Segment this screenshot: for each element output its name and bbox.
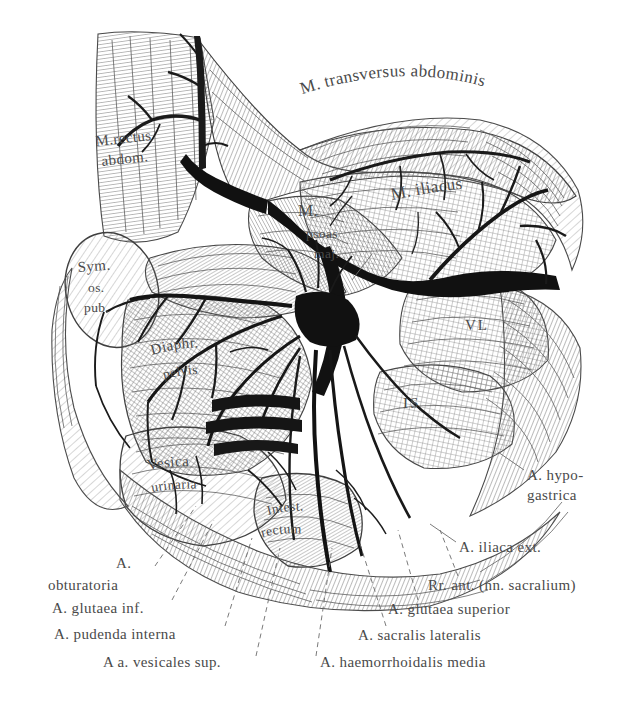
label-glutaea-inf: A. glutaea inf. [52, 600, 144, 616]
label-psoas-major-line3: maj. [314, 246, 339, 261]
label-pudenda-interna: A. pudenda interna [54, 626, 176, 642]
label-rr-ant-sacralium: Rr. ant. (nn. sacralium) [428, 577, 576, 594]
label-glutaea-superior: A. glutaea superior [388, 601, 510, 617]
label-symphysis-line1: Sym. [77, 257, 111, 275]
label-obturatoria-line2: obturatoria [48, 577, 118, 593]
label-psoas-major-m: M. [298, 201, 318, 220]
label-iliaca-ext: A. iliaca ext. [459, 539, 541, 555]
label-vl: VL [465, 317, 489, 333]
anatomical-illustration: M. transversus abdominis M.rectus abdom.… [0, 0, 644, 713]
label-haemorrhoidalis-media: A. haemorrhoidalis media [320, 654, 486, 670]
label-symphysis-line3: pub. [84, 300, 109, 315]
label-vesicales-sup: A a. vesicales sup. [103, 654, 221, 670]
label-is: IS [403, 395, 420, 411]
label-obturatoria-line1: A. [116, 555, 131, 571]
label-symphysis-line2: os. [88, 280, 105, 295]
label-hypogastrica-line2: gastrica [527, 487, 577, 503]
label-psoas-major-line2: psoas [306, 226, 338, 241]
label-hypogastrica-line1: A. hypo- [527, 467, 584, 483]
label-sacralis-lateralis: A. sacralis lateralis [358, 627, 481, 643]
